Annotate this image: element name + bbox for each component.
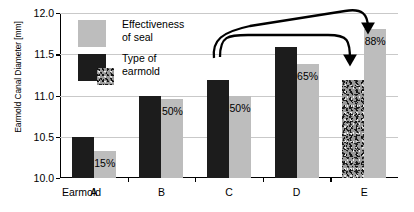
- y-tick-label: 10.5: [34, 131, 54, 143]
- bar-type-of-earmold-a: [72, 137, 94, 178]
- bar-data-label-a: 15%: [94, 157, 116, 169]
- bar-effectiveness-of-seal-c: 50%: [229, 96, 251, 178]
- y-tick-label: 10.0: [34, 172, 54, 184]
- bar-type-of-earmold-b: [139, 96, 161, 178]
- bar-effectiveness-of-seal-a: 15%: [94, 151, 116, 178]
- bar-effectiveness-of-seal-b: 50%: [161, 99, 183, 178]
- y-axis-title: Earmold Canal Diameter [mm]: [13, 0, 23, 157]
- y-tick-label: 11.0: [34, 90, 54, 102]
- bar-data-label-d: 65%: [297, 70, 319, 82]
- bar-type-of-earmold-c: [207, 80, 229, 178]
- bar-data-label-b: 50%: [161, 105, 183, 117]
- legend-label-earmold: Type of earmold: [122, 52, 160, 78]
- bar-type-of-earmold-e: [342, 80, 364, 178]
- y-tick-mark: [56, 96, 60, 97]
- x-tick-mark: [263, 178, 264, 182]
- x-axis-label-e: E: [330, 186, 398, 198]
- bar-chart: Earmold Canal Diameter [mm] Earmold 10.0…: [0, 0, 414, 212]
- legend-swatch-icon-earmold-speckled: [97, 68, 114, 85]
- x-axis-label-b: B: [128, 186, 196, 198]
- y-tick-label: 11.5: [34, 48, 54, 60]
- bar-data-label-e: 88%: [364, 35, 386, 47]
- bar-effectiveness-of-seal-e: 88%: [364, 29, 386, 178]
- y-tick-mark: [56, 178, 60, 179]
- bar-effectiveness-of-seal-d: 65%: [297, 64, 319, 178]
- x-tick-mark: [330, 178, 331, 182]
- legend-swatch-icon-effectiveness: [78, 20, 106, 47]
- gridline: [60, 54, 398, 55]
- bar-data-label-c: 50%: [229, 102, 251, 114]
- bar-type-of-earmold-d: [275, 47, 297, 178]
- y-tick-mark: [56, 137, 60, 138]
- x-axis-label-a: A: [60, 186, 128, 198]
- plot-area: 10.010.511.011.512.0 15%50%50%65%88%: [60, 13, 398, 178]
- y-tick-mark: [56, 13, 60, 14]
- y-tick-mark: [56, 54, 60, 55]
- x-tick-mark: [128, 178, 129, 182]
- gridline: [60, 13, 398, 14]
- x-axis-label-d: D: [263, 186, 331, 198]
- legend-label-effectiveness: Effectiveness of seal: [122, 18, 184, 44]
- x-tick-mark: [195, 178, 196, 182]
- y-tick-label: 12.0: [34, 7, 54, 19]
- x-axis-label-c: C: [195, 186, 263, 198]
